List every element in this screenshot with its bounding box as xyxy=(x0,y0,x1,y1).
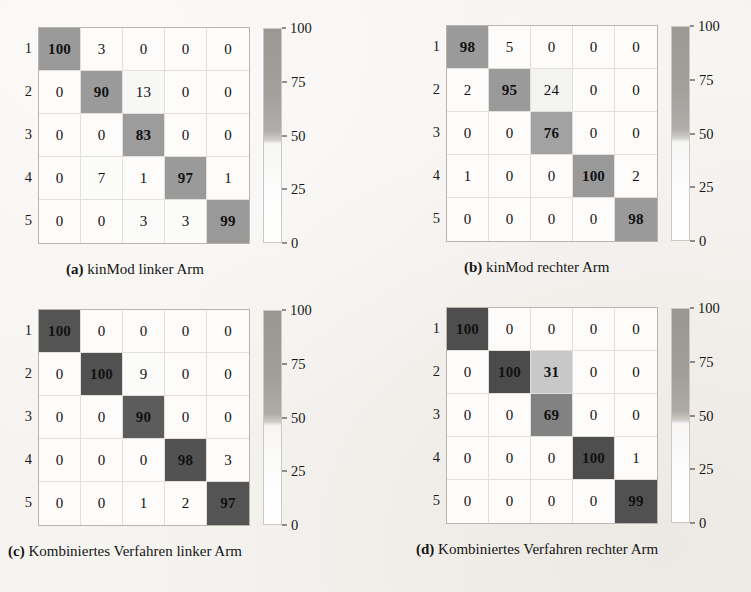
panel-b-row-label-2: 2 xyxy=(420,68,440,111)
panel-a-row-label-1: 1 xyxy=(12,27,32,70)
panel-b-cell-r2c3: 24 xyxy=(531,69,573,112)
panel-a-cell-r3c1: 0 xyxy=(39,114,81,157)
panel-a-colorbar-tick-label: 50 xyxy=(291,127,306,144)
panel-a-colorbar-axis: 1007550250 xyxy=(282,28,326,243)
panel-a: 12345 10030000901300008300071971003399 1… xyxy=(0,0,380,292)
panel-a-cell-r3c3: 83 xyxy=(123,114,165,157)
panel-d: 12345 1000000010031000069000001001000099… xyxy=(380,292,751,592)
panel-b-cell-r5c3: 0 xyxy=(531,198,573,241)
panel-c-cell-r4c5: 3 xyxy=(207,439,249,482)
panel-a-colorbar xyxy=(263,28,282,243)
panel-d-cell-r4c5: 1 xyxy=(615,437,657,480)
panel-c-row-label-1: 1 xyxy=(12,309,32,352)
panel-d-colorbar-tick-label: 75 xyxy=(699,353,714,370)
panel-d-colorbar-axis: 1007550250 xyxy=(690,308,734,523)
panel-b-row-labels: 12345 xyxy=(420,25,440,240)
panel-c-cell-r3c1: 0 xyxy=(39,396,81,439)
panel-c-cell-r3c2: 0 xyxy=(81,396,123,439)
tick-dash-icon xyxy=(282,28,286,29)
panel-a-cell-r2c2: 90 xyxy=(81,71,123,114)
panel-c-cell-r3c3: 90 xyxy=(123,396,165,439)
panel-b-colorbar xyxy=(671,26,690,241)
panel-c-colorbar-tick-100: 100 xyxy=(282,302,312,319)
panel-b-row-label-5: 5 xyxy=(420,197,440,240)
panel-c-caption: (c) Kombiniertes Verfahren linker Arm xyxy=(8,543,242,560)
panel-c-colorbar-axis: 1007550250 xyxy=(282,310,326,525)
panel-a-colorbar-tick-25: 25 xyxy=(282,181,306,198)
panel-c-row-labels: 12345 xyxy=(12,309,32,524)
panel-d-row-label-5: 5 xyxy=(420,479,440,522)
tick-dash-icon xyxy=(690,361,695,362)
panel-b-colorbar-tick-label: 75 xyxy=(699,71,714,88)
panel-c-cell-r1c5: 0 xyxy=(207,310,249,353)
panel-b-cell-r1c5: 0 xyxy=(615,26,657,69)
panel-b-cell-r4c3: 0 xyxy=(531,155,573,198)
panel-c-colorbar-tick-label: 75 xyxy=(291,355,306,372)
panel-d-cell-r3c2: 0 xyxy=(489,394,531,437)
tick-dash-icon xyxy=(282,243,287,244)
panel-c-cell-r4c4: 98 xyxy=(165,439,207,482)
panel-d-cell-r3c3: 69 xyxy=(531,394,573,437)
panel-d-colorbar-tick-label: 0 xyxy=(699,515,706,532)
tick-dash-icon xyxy=(282,189,287,190)
panel-a-cell-r4c4: 97 xyxy=(165,157,207,200)
panel-a-cell-r2c4: 0 xyxy=(165,71,207,114)
panel-b-colorbar-tick-100: 100 xyxy=(690,18,720,35)
panel-a-cell-r3c4: 0 xyxy=(165,114,207,157)
panel-c-cell-r5c1: 0 xyxy=(39,482,81,525)
panel-a-cell-r5c5: 99 xyxy=(207,200,249,243)
panel-a-colorbar-tick-0: 0 xyxy=(282,235,298,252)
panel-a-cell-r1c3: 0 xyxy=(123,28,165,71)
panel-c-body: 12345 10000000100900009000000983001297 1… xyxy=(12,309,326,526)
panel-b-caption-text: kinMod rechter Arm xyxy=(486,259,609,275)
panel-d-matrix: 1000000010031000069000001001000099 xyxy=(446,307,658,524)
panel-a-colorbar-tick-label: 0 xyxy=(291,235,298,252)
panel-d-cell-r4c2: 0 xyxy=(489,437,531,480)
panel-d-cell-r5c1: 0 xyxy=(447,480,489,523)
tick-dash-icon xyxy=(282,310,286,311)
tick-dash-icon xyxy=(690,241,695,242)
panel-d-cell-r5c2: 0 xyxy=(489,480,531,523)
panel-c-colorbar-tick-0: 0 xyxy=(282,517,298,534)
tick-dash-icon xyxy=(690,415,695,416)
panel-d-caption-label: (d) xyxy=(416,541,434,557)
panel-b-cell-r1c3: 0 xyxy=(531,26,573,69)
panel-d-colorbar-tick-label: 100 xyxy=(698,300,720,317)
panel-c-colorbar-tick-label: 100 xyxy=(290,302,312,319)
panel-c-colorbar-tick-label: 50 xyxy=(291,409,306,426)
panel-b-cell-r1c2: 5 xyxy=(489,26,531,69)
panel-d-cell-r1c4: 0 xyxy=(573,308,615,351)
panel-d-colorbar-tick-100: 100 xyxy=(690,300,720,317)
panel-b-cell-r4c4: 100 xyxy=(573,155,615,198)
panel-b-caption: (b) kinMod rechter Arm xyxy=(464,259,609,276)
panel-c-row-label-4: 4 xyxy=(12,438,32,481)
panel-a-cell-r1c2: 3 xyxy=(81,28,123,71)
panel-b-cell-r5c5: 98 xyxy=(615,198,657,241)
panel-c: 12345 10000000100900009000000983001297 1… xyxy=(0,292,380,592)
panel-c-cell-r2c5: 0 xyxy=(207,353,249,396)
panel-d-cell-r5c3: 0 xyxy=(531,480,573,523)
panel-a-caption-text: kinMod linker Arm xyxy=(87,261,204,277)
panel-d-cell-r1c1: 100 xyxy=(447,308,489,351)
panel-d-colorbar-tick-50: 50 xyxy=(690,407,714,424)
panel-d-cell-r1c2: 0 xyxy=(489,308,531,351)
panel-a-colorbar-tick-50: 50 xyxy=(282,127,306,144)
panel-a-row-labels: 12345 xyxy=(12,27,32,242)
panel-c-colorbar-group: 1007550250 xyxy=(263,310,326,525)
panel-d-cell-r5c4: 0 xyxy=(573,480,615,523)
panel-b-cell-r3c1: 0 xyxy=(447,112,489,155)
panel-b-cell-r1c1: 98 xyxy=(447,26,489,69)
panel-d-cell-r2c4: 0 xyxy=(573,351,615,394)
panel-a-cell-r4c1: 0 xyxy=(39,157,81,200)
panel-a-cell-r5c4: 3 xyxy=(165,200,207,243)
panel-b-colorbar-tick-0: 0 xyxy=(690,233,706,250)
panel-d-cell-r3c4: 0 xyxy=(573,394,615,437)
panel-c-cell-r5c3: 1 xyxy=(123,482,165,525)
panel-a-colorbar-tick-label: 25 xyxy=(291,181,306,198)
tick-dash-icon xyxy=(282,525,287,526)
tick-dash-icon xyxy=(690,187,695,188)
panel-c-cell-r2c3: 9 xyxy=(123,353,165,396)
panel-a-cell-r5c2: 0 xyxy=(81,200,123,243)
panel-c-cell-r3c5: 0 xyxy=(207,396,249,439)
panel-d-colorbar-tick-25: 25 xyxy=(690,461,714,478)
